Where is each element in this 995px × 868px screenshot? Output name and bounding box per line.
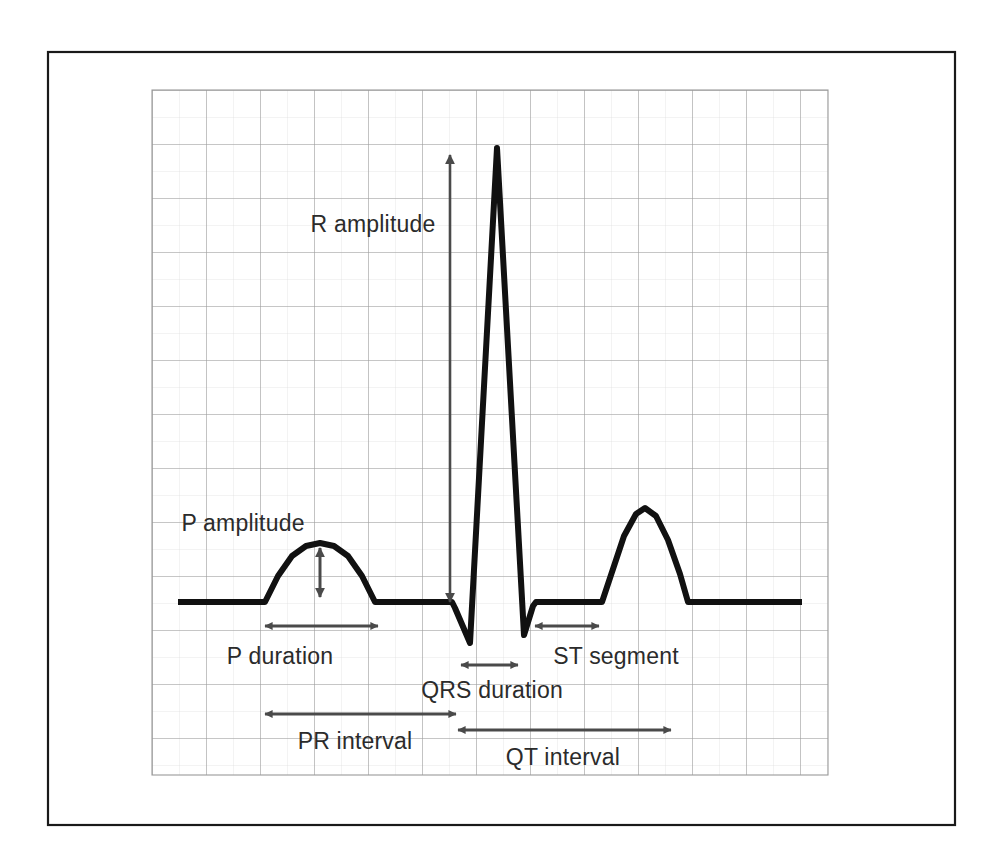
label-p-duration: P duration (227, 643, 333, 669)
graph-paper-grid (152, 90, 828, 775)
ecg-diagram-canvas: R amplitude P amplitude P duration ST se… (0, 0, 995, 868)
label-qrs-duration: QRS duration (421, 677, 563, 703)
label-p-amplitude: P amplitude (181, 510, 304, 536)
ecg-figure: R amplitude P amplitude P duration ST se… (0, 0, 995, 868)
grid-major-lines (152, 90, 828, 775)
label-qt-interval: QT interval (506, 744, 620, 770)
label-r-amplitude: R amplitude (311, 211, 436, 237)
label-pr-interval: PR interval (298, 728, 413, 754)
label-st-segment: ST segment (553, 643, 679, 669)
